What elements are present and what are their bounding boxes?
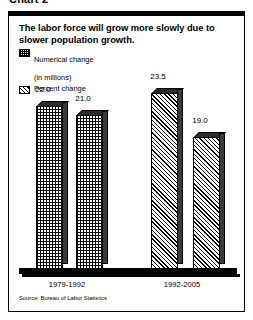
legend-label-numerical-change: Numerical change [34, 55, 94, 64]
bar-fill-checkerboard [77, 116, 102, 269]
bar-1992-2005-percent [193, 137, 220, 270]
bar-1992-2005-numerical [151, 93, 178, 270]
chart-baseline-shadow [22, 274, 240, 277]
legend-item-numerical-change-text: Numerical change (in millions) [34, 48, 94, 84]
chart-title: The labor force will grow more slowly du… [19, 22, 232, 46]
source-note: Source: Bureau of Labor Statistics [19, 295, 107, 301]
bar-side-face [102, 111, 108, 264]
bar-value-label: 19.0 [180, 116, 220, 125]
bar-fill-diagonal [152, 94, 177, 269]
plot-area: 22.0 21.0 23.5 19.0 [19, 84, 235, 270]
chart-panel: The labor force will grow more slowly du… [8, 11, 245, 312]
category-label-1979-1992: 1979-1992 [27, 280, 107, 289]
bar-1979-1992-percent [76, 115, 103, 270]
category-label-1992-2005: 1992-2005 [142, 280, 222, 289]
bar-side-face [219, 133, 225, 264]
bar-fill-checkerboard [37, 107, 62, 269]
bar-fill-diagonal [194, 138, 219, 269]
bar-value-label: 23.5 [138, 72, 178, 81]
bar-1979-1992-numerical [36, 106, 63, 270]
panel-top-rule [9, 12, 244, 16]
chart-number-heading: Chart 2 [9, 0, 48, 5]
legend-item-numerical-change: Numerical change (in millions) [19, 48, 94, 84]
bar-side-face [62, 102, 68, 264]
bar-value-label: 21.0 [63, 94, 103, 103]
legend-sublabel-numerical-change: (in millions) [34, 73, 71, 82]
legend-swatch-checkerboard-icon [19, 49, 30, 57]
bar-value-label: 22.0 [23, 85, 63, 94]
